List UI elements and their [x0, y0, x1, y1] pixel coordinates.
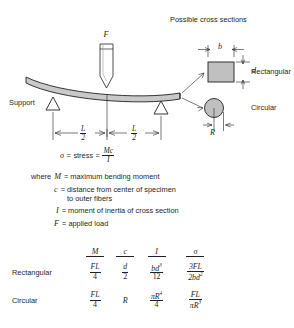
- cell-rect-c: d 2: [111, 258, 139, 286]
- circular-section-label: Circular: [251, 104, 276, 113]
- definition-item-I: I = moment of inertia of cross section: [56, 206, 179, 215]
- definition-item-F: F = applied load: [54, 219, 179, 228]
- figure-canvas: Possible cross sections F Support b d R …: [0, 0, 294, 328]
- definition-symbol-c: c: [54, 185, 58, 194]
- row-label-rectangular: Rectangular: [12, 258, 79, 286]
- definition-text-c-continued: to outer fibers: [67, 194, 179, 203]
- table-header-M: M: [79, 246, 111, 258]
- definition-symbol-M: M: [54, 172, 61, 181]
- table-row: Rectangular FL 4 d 2: [12, 258, 217, 286]
- table-header-blank: [12, 246, 79, 258]
- equation-equals-2: =: [96, 151, 100, 160]
- definition-text-I: = moment of inertia of cross section: [62, 206, 179, 215]
- loading-nose-icon: [100, 44, 113, 88]
- rectangular-cross-section: [198, 45, 250, 89]
- cell-rect-I: bd3 12: [139, 258, 174, 286]
- definition-item-c: c = distance from center of specimen: [54, 185, 179, 194]
- definition-symbol-F: F: [54, 219, 59, 228]
- sigma-symbol: σ: [60, 151, 64, 160]
- stress-word: stress: [73, 151, 93, 160]
- cell-circ-sigma: FL πR3: [174, 286, 217, 314]
- three-point-bend-diagram: [0, 0, 294, 160]
- mc-denominator: I: [102, 156, 114, 164]
- table-header-row: M c I σ: [12, 246, 217, 258]
- load-symbol-label: F: [104, 30, 109, 39]
- table-header-I: I: [139, 246, 174, 258]
- cell-circ-M: FL 4: [79, 286, 111, 314]
- definition-text-c: = distance from center of specimen: [61, 185, 176, 194]
- definition-item-M: where M = maximum bending moment: [31, 172, 179, 181]
- cell-circ-c: R: [111, 286, 139, 314]
- support-right-icon: [154, 101, 168, 114]
- dimension-b-label: b: [218, 42, 222, 51]
- span-left-dimension-label: L 2: [80, 124, 86, 142]
- cell-rect-sigma: 3FL 2bd2: [174, 258, 217, 286]
- where-word: where: [31, 172, 51, 181]
- definition-text-M: = maximum bending moment: [64, 172, 160, 181]
- table-header-sigma: σ: [174, 246, 217, 258]
- definitions-block: where M = maximum bending moment c = dis…: [31, 172, 179, 228]
- cell-circ-I: πR4 4: [139, 286, 174, 314]
- table-header-c: c: [111, 246, 139, 258]
- circular-cross-section: [203, 99, 234, 132]
- rectangular-section-label: Rectangular: [251, 68, 291, 77]
- row-label-circular: Circular: [12, 286, 79, 314]
- table-row: Circular FL 4 R πR4 4: [12, 286, 217, 314]
- equation-equals-1: =: [67, 151, 71, 160]
- support-left-icon: [46, 97, 60, 110]
- formula-table: M c I σ Rectangular: [12, 246, 217, 314]
- definition-symbol-I: I: [56, 206, 59, 215]
- definition-text-F: = applied load: [62, 219, 108, 228]
- span-left-denominator: 2: [80, 134, 86, 142]
- cell-rect-M: FL 4: [79, 258, 111, 286]
- cross-sections-heading: Possible cross sections: [170, 16, 247, 25]
- leader-arrows: [182, 73, 204, 111]
- support-label: Support: [9, 99, 35, 108]
- span-right-dimension-label: L 2: [131, 124, 137, 142]
- dimension-R-label: R: [210, 128, 215, 137]
- stress-equation: σ = stress = Mc I: [60, 147, 114, 164]
- span-right-denominator: 2: [131, 134, 137, 142]
